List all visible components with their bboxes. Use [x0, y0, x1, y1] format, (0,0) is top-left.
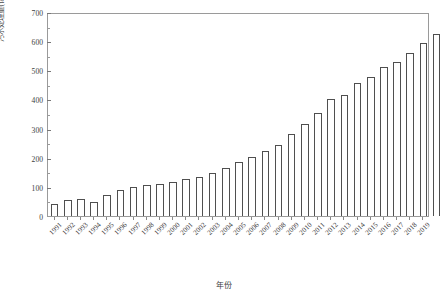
- bar: [169, 182, 177, 216]
- bar: [406, 53, 414, 216]
- x-tick-label: 2015: [364, 221, 380, 237]
- x-tick-label: 2007: [258, 221, 274, 237]
- x-tick-label: 1997: [126, 221, 142, 237]
- x-tick-label: 2019: [416, 221, 432, 237]
- chart-figure: 污水处理量(亿m³) 0100200300400500600700 199119…: [0, 0, 447, 296]
- x-tick-mark: [67, 217, 68, 220]
- x-tick-mark: [119, 217, 120, 220]
- y-tick-label: 600: [15, 38, 43, 47]
- y-minor-tick-mark: [47, 28, 50, 29]
- x-axis-title: 年份: [0, 279, 447, 290]
- x-tick-mark: [304, 217, 305, 220]
- bar: [288, 134, 296, 216]
- x-tick-mark: [383, 217, 384, 220]
- x-tick-mark: [330, 217, 331, 220]
- y-minor-tick-mark: [47, 144, 50, 145]
- y-tick-label: 0: [15, 213, 43, 222]
- x-tick-label: 2014: [350, 221, 366, 237]
- bar: [420, 43, 428, 216]
- y-axis-title: 污水处理量(亿m³): [0, 0, 5, 74]
- x-tick-mark: [251, 217, 252, 220]
- bar: [327, 99, 335, 216]
- y-tick-label: 500: [15, 67, 43, 76]
- x-tick-mark: [264, 217, 265, 220]
- y-minor-tick-mark: [47, 202, 50, 203]
- bar: [380, 67, 388, 216]
- bar: [196, 177, 204, 216]
- x-tick-mark: [172, 217, 173, 220]
- bar: [64, 200, 72, 216]
- y-tick-label: 200: [15, 154, 43, 163]
- bar: [130, 187, 138, 216]
- bar: [275, 145, 283, 216]
- y-tick-label: 700: [15, 9, 43, 18]
- y-tick-mark: [47, 130, 51, 131]
- x-tick-mark: [317, 217, 318, 220]
- x-tick-mark: [278, 217, 279, 220]
- y-tick-mark: [47, 159, 51, 160]
- x-tick-mark: [198, 217, 199, 220]
- x-tick-mark: [396, 217, 397, 220]
- bar: [143, 185, 151, 216]
- bar: [117, 190, 125, 216]
- x-tick-label: 2004: [219, 221, 235, 237]
- y-tick-label: 100: [15, 183, 43, 192]
- y-tick-label: 300: [15, 125, 43, 134]
- x-tick-mark: [106, 217, 107, 220]
- x-tick-label: 1998: [140, 221, 156, 237]
- bar: [393, 62, 401, 216]
- bar: [354, 83, 362, 216]
- bar: [156, 184, 164, 216]
- y-tick-mark: [47, 13, 51, 14]
- y-tick-mark: [47, 71, 51, 72]
- x-tick-label: 2002: [192, 221, 208, 237]
- x-tick-mark: [159, 217, 160, 220]
- y-minor-tick-mark: [47, 115, 50, 116]
- x-tick-mark: [238, 217, 239, 220]
- x-tick-mark: [422, 217, 423, 220]
- x-tick-mark: [185, 217, 186, 220]
- x-tick-mark: [291, 217, 292, 220]
- x-tick-label: 2013: [337, 221, 353, 237]
- bar: [301, 124, 309, 216]
- bar: [262, 151, 270, 216]
- y-tick-mark: [47, 42, 51, 43]
- y-minor-tick-mark: [47, 57, 50, 58]
- x-tick-label: 2003: [205, 221, 221, 237]
- x-tick-label: 2008: [271, 221, 287, 237]
- x-tick-mark: [409, 217, 410, 220]
- plot-area: [47, 13, 429, 217]
- bars-layer: [48, 14, 428, 216]
- bar: [51, 204, 59, 216]
- y-tick-mark: [47, 188, 51, 189]
- x-tick-mark: [343, 217, 344, 220]
- bar: [77, 199, 85, 216]
- x-tick-mark: [146, 217, 147, 220]
- bar: [433, 34, 441, 216]
- bar: [341, 95, 349, 216]
- bar: [248, 157, 256, 216]
- x-tick-mark: [93, 217, 94, 220]
- x-tick-mark: [54, 217, 55, 220]
- bar: [222, 168, 230, 216]
- y-minor-tick-mark: [47, 86, 50, 87]
- x-tick-mark: [370, 217, 371, 220]
- x-tick-label: 2009: [285, 221, 301, 237]
- x-tick-label: 1996: [113, 221, 129, 237]
- y-tick-mark: [47, 100, 51, 101]
- y-minor-tick-mark: [47, 173, 50, 174]
- bar: [235, 162, 243, 216]
- bar: [182, 179, 190, 216]
- x-tick-mark: [80, 217, 81, 220]
- bar: [209, 173, 217, 216]
- x-tick-label: 1991: [47, 221, 63, 237]
- x-tick-mark: [212, 217, 213, 220]
- x-tick-mark: [225, 217, 226, 220]
- bar: [90, 202, 98, 216]
- x-tick-label: 1992: [61, 221, 77, 237]
- bar: [367, 77, 375, 216]
- x-tick-mark: [357, 217, 358, 220]
- y-tick-label: 400: [15, 96, 43, 105]
- bar: [314, 113, 322, 216]
- x-tick-mark: [133, 217, 134, 220]
